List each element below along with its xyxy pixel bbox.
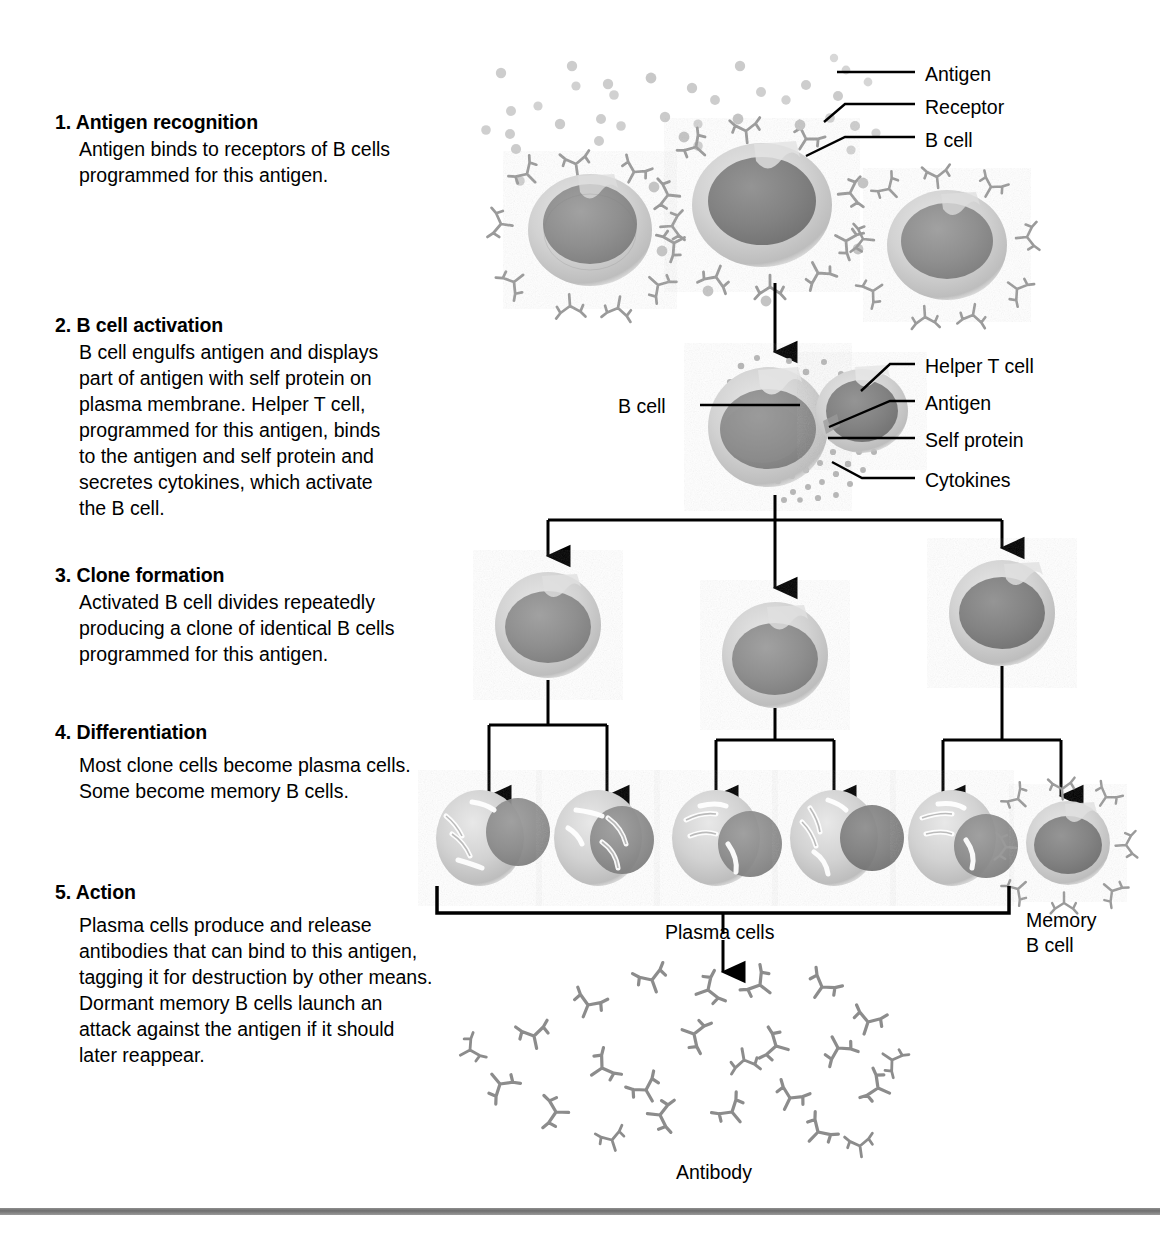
step-3: 3. Clone formation Activated B cell divi… (55, 563, 475, 668)
step-3-body: Activated B cell divides repeatedly prod… (79, 590, 475, 668)
callout-cytokines: Cytokines (925, 468, 1011, 493)
callout-b-cell-left: B cell (618, 394, 666, 419)
bottom-divider (0, 1208, 1160, 1215)
step-1: 1. Antigen recognition Antigen binds to … (55, 110, 475, 189)
callout-antigen-top: Antigen (925, 62, 991, 87)
step-4-title: 4. Differentiation (55, 720, 475, 744)
step-5-body: Plasma cells produce and release antibod… (79, 913, 475, 1069)
step-2-number: 2. (55, 314, 71, 336)
step-1-heading: Antigen recognition (76, 111, 258, 133)
step-5-title: 5. Action (55, 880, 475, 904)
callout-b-cell-top: B cell (925, 128, 973, 153)
step-4: 4. Differentiation Most clone cells beco… (55, 720, 475, 805)
step-1-title: 1. Antigen recognition (55, 110, 475, 134)
step-3-title: 3. Clone formation (55, 563, 475, 587)
step-2-title: 2. B cell activation (55, 313, 475, 337)
step-5-number: 5. (55, 881, 71, 903)
step-3-heading: Clone formation (76, 564, 224, 586)
step-1-number: 1. (55, 111, 71, 133)
callout-self-protein: Self protein (925, 428, 1024, 453)
callout-memory-b-cell: Memory B cell (1026, 908, 1096, 959)
step-2-body: B cell engulfs antigen and displays part… (79, 340, 475, 521)
step-2-heading: B cell activation (76, 314, 223, 336)
step-1-body: Antigen binds to receptors of B cells pr… (79, 137, 475, 189)
callout-antibody: Antibody (676, 1160, 752, 1185)
callout-plasma-cells: Plasma cells (665, 920, 774, 945)
callout-antigen-mid: Antigen (925, 391, 991, 416)
step-4-heading: Differentiation (76, 721, 207, 743)
step-2: 2. B cell activation B cell engulfs anti… (55, 313, 475, 522)
step-5: 5. Action Plasma cells produce and relea… (55, 880, 475, 1069)
step-4-number: 4. (55, 721, 71, 743)
callout-helper-t-cell: Helper T cell (925, 354, 1034, 379)
step-5-heading: Action (76, 881, 136, 903)
step-3-number: 3. (55, 564, 71, 586)
callout-receptor: Receptor (925, 95, 1004, 120)
step-4-body: Most clone cells become plasma cells. So… (79, 753, 475, 805)
figure-canvas: 1. Antigen recognition Antigen binds to … (0, 0, 1160, 1241)
